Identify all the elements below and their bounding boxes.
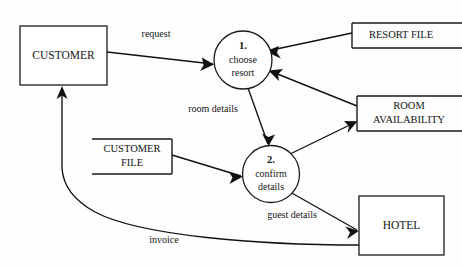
- flow-resort-file-line: [267, 33, 352, 51]
- datastore-customer-file[interactable]: CUSTOMER FILE: [92, 139, 172, 174]
- flow-p2-to-room-availability: [288, 121, 358, 155]
- datastore-customer-file-label-line1: CUSTOMER: [104, 143, 161, 154]
- flow-room-avail-in-line: [270, 71, 357, 106]
- process-confirm-details-number: 2.: [267, 154, 275, 165]
- entity-customer-label: CUSTOMER: [32, 49, 95, 61]
- flow-label-room-details: room details: [188, 103, 238, 114]
- dataflow-diagram-canvas: CUSTOMER HOTEL RESORT FILE ROOM AVAILABI…: [0, 0, 462, 267]
- process-choose-resort-number: 1.: [239, 40, 247, 51]
- entity-hotel[interactable]: HOTEL: [359, 196, 444, 255]
- flow-room-details-arrowhead: [262, 134, 275, 147]
- datastore-resort-file[interactable]: RESORT FILE: [352, 23, 462, 48]
- flow-request-arrowhead: [200, 58, 214, 72]
- flow-resort-file-to-p1: [266, 33, 353, 59]
- process-choose-resort[interactable]: 1. choose resort: [214, 31, 272, 89]
- datastore-resort-file-label: RESORT FILE: [369, 29, 433, 40]
- process-confirm-details-line2: details: [258, 181, 284, 192]
- datastore-customer-file-label-line2: FILE: [121, 157, 143, 168]
- flow-label-request: request: [142, 28, 171, 39]
- flow-guest-details-arrowhead: [346, 227, 359, 240]
- diagram-svg: CUSTOMER HOTEL RESORT FILE ROOM AVAILABI…: [0, 0, 462, 267]
- flow-label-guest-details: guest details: [267, 209, 317, 220]
- process-choose-resort-line2: resort: [232, 67, 255, 78]
- flow-room-details: [248, 88, 275, 146]
- datastore-room-availability-label-line2: AVAILABILITY: [373, 114, 445, 125]
- process-confirm-details[interactable]: 2. confirm details: [243, 146, 300, 203]
- entity-customer[interactable]: CUSTOMER: [20, 26, 107, 85]
- flow-label-invoice: invoice: [149, 234, 179, 245]
- flow-request-line: [107, 52, 213, 64]
- datastore-room-availability[interactable]: ROOM AVAILABILITY: [357, 96, 462, 131]
- flow-request: [107, 52, 214, 71]
- flow-customer-file-to-p2: [172, 155, 243, 184]
- process-choose-resort-line1: choose: [229, 54, 257, 65]
- flow-room-availability-to-p1: [269, 69, 358, 106]
- datastore-room-availability-label-line1: ROOM: [393, 100, 425, 111]
- flow-room-avail-out-line: [288, 122, 356, 155]
- entity-hotel-label: HOTEL: [383, 219, 421, 231]
- process-confirm-details-line1: confirm: [255, 168, 287, 179]
